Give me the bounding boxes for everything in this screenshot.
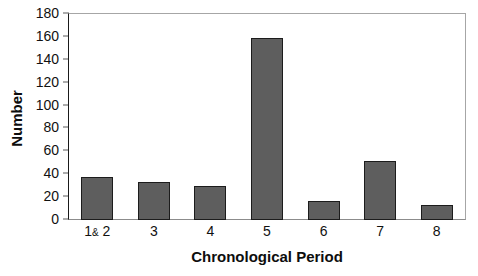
bar-slot xyxy=(69,14,126,220)
x-axis-tick-labels: 1& 2345678 xyxy=(69,224,465,246)
x-axis-tick-label: 5 xyxy=(263,224,271,238)
bar[interactable] xyxy=(138,182,170,220)
bar-chart: Number 020406080100120140160180 1& 23456… xyxy=(0,0,478,276)
y-axis-tick-label: 160 xyxy=(36,29,59,43)
y-axis-tick-label: 0 xyxy=(51,212,59,226)
x-axis-tick-label: 4 xyxy=(207,224,215,238)
y-axis-tick-label: 180 xyxy=(36,6,59,20)
bar[interactable] xyxy=(194,186,226,220)
y-axis-tick-label: 100 xyxy=(36,98,59,112)
x-axis-tick-label: 1& 2 xyxy=(84,224,110,238)
y-axis-tick-label: 60 xyxy=(43,143,59,157)
bar-slot xyxy=(408,14,465,220)
y-axis-tick-labels: 020406080100120140160180 xyxy=(24,13,62,220)
y-axis-tick-label: 20 xyxy=(43,189,59,203)
bar[interactable] xyxy=(308,201,340,220)
bar-slot xyxy=(352,14,409,220)
x-axis-tick-label: 3 xyxy=(150,224,158,238)
x-axis-tick-label: 8 xyxy=(433,224,441,238)
bar-slot xyxy=(295,14,352,220)
bar-slot xyxy=(126,14,183,220)
x-axis-tick-label: 7 xyxy=(376,224,384,238)
x-axis-title: Chronological Period xyxy=(68,248,466,265)
y-axis-title-label: Number xyxy=(8,90,25,147)
bar[interactable] xyxy=(81,177,113,220)
bar[interactable] xyxy=(421,205,453,220)
bars-layer xyxy=(69,14,465,220)
y-axis-tick-label: 80 xyxy=(43,120,59,134)
x-axis-tick-label: 6 xyxy=(320,224,328,238)
bar[interactable] xyxy=(251,38,283,220)
y-axis-tick-label: 120 xyxy=(36,75,59,89)
bar-slot xyxy=(239,14,296,220)
y-axis-tick-label: 140 xyxy=(36,52,59,66)
bar[interactable] xyxy=(364,161,396,221)
bar-slot xyxy=(182,14,239,220)
y-axis-tick-label: 40 xyxy=(43,166,59,180)
